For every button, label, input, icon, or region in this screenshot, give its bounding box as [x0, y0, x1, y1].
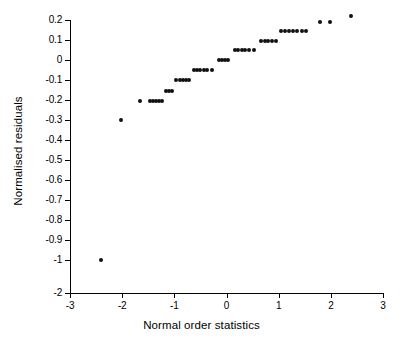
y-tick-label: -0.9 — [28, 234, 62, 245]
y-tick-label: -2 — [28, 287, 62, 298]
data-point — [226, 58, 230, 62]
x-tick — [331, 293, 332, 298]
y-tick-label: 0 — [28, 54, 62, 65]
data-point — [328, 20, 332, 24]
y-tick — [65, 260, 70, 261]
y-tick — [65, 60, 70, 61]
y-tick-label: -0.4 — [28, 134, 62, 145]
data-point — [170, 89, 174, 93]
y-tick-label: -0.2 — [28, 94, 62, 105]
x-axis-label: Normal order statistics — [0, 319, 403, 331]
x-tick-label: -1 — [159, 300, 189, 311]
x-tick-label: -2 — [107, 300, 137, 311]
y-tick — [65, 293, 70, 294]
data-point — [210, 68, 214, 72]
data-point — [138, 99, 142, 103]
data-point — [119, 118, 123, 122]
y-tick — [65, 40, 70, 41]
data-point — [99, 258, 103, 262]
y-tick — [65, 100, 70, 101]
y-tick — [65, 140, 70, 141]
data-point — [349, 14, 353, 18]
y-tick-label: -0.1 — [28, 74, 62, 85]
data-point — [252, 48, 256, 52]
y-tick — [65, 120, 70, 121]
y-tick — [65, 200, 70, 201]
x-tick-label: 0 — [212, 300, 242, 311]
y-tick-label: -0.7 — [28, 194, 62, 205]
y-tick-label: -0.3 — [28, 114, 62, 125]
data-point — [187, 78, 191, 82]
y-tick-label: -1 — [28, 254, 62, 265]
x-tick-label: 1 — [264, 300, 294, 311]
data-point — [295, 29, 299, 33]
data-point — [300, 29, 304, 33]
data-point — [318, 20, 322, 24]
x-tick — [383, 293, 384, 298]
data-point — [205, 68, 209, 72]
y-tick-label: 0.1 — [28, 34, 62, 45]
y-tick — [65, 20, 70, 21]
x-tick — [174, 293, 175, 298]
y-tick-label: 0.2 — [28, 14, 62, 25]
x-tick-label: 2 — [316, 300, 346, 311]
x-tick-label: -3 — [55, 300, 85, 311]
y-tick — [65, 180, 70, 181]
y-axis-label: Normalised residuals — [12, 46, 24, 256]
x-tick-label: 3 — [368, 300, 398, 311]
x-tick — [279, 293, 280, 298]
y-tick-label: -0.6 — [28, 174, 62, 185]
y-tick — [65, 220, 70, 221]
data-point — [274, 39, 278, 43]
y-tick-label: -0.8 — [28, 214, 62, 225]
y-tick — [65, 160, 70, 161]
y-tick — [65, 80, 70, 81]
x-tick — [70, 293, 71, 298]
y-tick-label: -0.5 — [28, 154, 62, 165]
x-tick — [227, 293, 228, 298]
x-tick — [122, 293, 123, 298]
y-axis-line — [70, 20, 71, 294]
data-point — [304, 29, 308, 33]
qq-plot-figure: -3-2-10123 0.20.10-0.1-0.2-0.3-0.4-0.5-0… — [0, 0, 403, 349]
y-tick — [65, 240, 70, 241]
data-point — [160, 99, 164, 103]
